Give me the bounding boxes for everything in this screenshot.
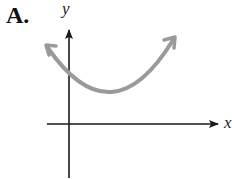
choice-label: A. — [6, 2, 29, 28]
coordinate-plane — [0, 0, 232, 179]
graph-figure: A. y x — [0, 0, 232, 179]
parabola-curve — [48, 40, 173, 92]
x-axis-label: x — [224, 113, 232, 133]
y-axis-label: y — [62, 0, 70, 19]
